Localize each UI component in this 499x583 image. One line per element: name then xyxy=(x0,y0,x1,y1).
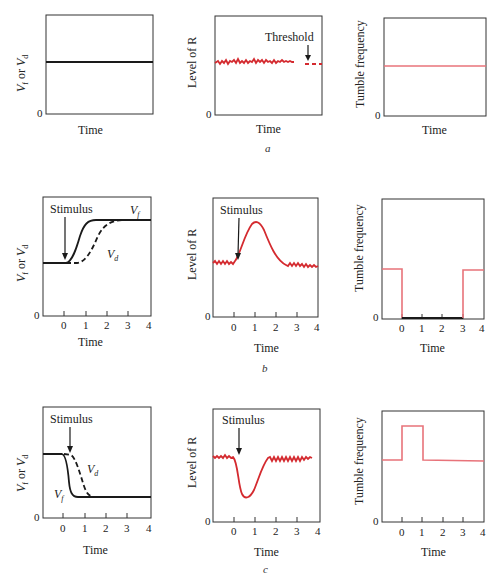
plot-frame xyxy=(384,18,486,116)
x-ticks xyxy=(63,513,127,518)
y-axis-label: Vf or Vd xyxy=(14,245,30,282)
x-ticks xyxy=(234,517,297,522)
x-tick-0: 0 xyxy=(61,319,67,331)
y-zero-label: 0 xyxy=(34,511,40,523)
vf-label: Vf xyxy=(54,487,65,503)
arrow-down-icon xyxy=(236,448,242,455)
y-axis-label: Tumble frequency xyxy=(353,20,367,108)
y-axis-label: Vf or Vd xyxy=(14,55,30,92)
y-zero-label: 0 xyxy=(205,310,211,322)
x-axis-label: Time xyxy=(422,123,447,137)
tumble-frequency-line xyxy=(382,426,484,461)
y-zero-label: 0 xyxy=(375,109,381,121)
y-zero-label: 0 xyxy=(373,311,379,323)
x-tick-1: 1 xyxy=(82,522,88,534)
panel-a-left: 0 Time Vf or Vd xyxy=(14,15,153,137)
x-tick-3: 3 xyxy=(294,525,300,537)
figure-canvas: 0 Time Vf or Vd Threshold 0 Time Level o… xyxy=(0,0,499,583)
x-axis-label: Time xyxy=(78,123,103,137)
panel-b-right: 0 1 2 3 4 0 Time Tumble frequency xyxy=(352,199,485,355)
x-tick-0: 0 xyxy=(231,525,237,537)
y-zero-label: 0 xyxy=(34,309,40,321)
vf-label: Vf xyxy=(130,203,141,219)
x-axis-label: Time xyxy=(421,545,446,559)
vd-label: Vd xyxy=(87,462,99,478)
y-axis-label: Level of R xyxy=(185,437,199,488)
plot-frame xyxy=(46,15,153,114)
x-tick-2: 2 xyxy=(104,319,110,331)
x-tick-0: 0 xyxy=(60,522,66,534)
x-ticks xyxy=(234,312,297,317)
x-tick-1: 1 xyxy=(419,526,425,538)
r-level-curve xyxy=(213,455,312,497)
x-ticks xyxy=(402,517,463,522)
x-axis-label: Time xyxy=(78,335,103,349)
x-tick-3: 3 xyxy=(294,321,300,333)
plot-frame xyxy=(382,411,484,522)
x-tick-2: 2 xyxy=(439,322,445,334)
x-tick-4: 4 xyxy=(315,525,321,537)
y-zero-label: 0 xyxy=(205,515,211,527)
x-tick-4: 4 xyxy=(479,322,485,334)
y-zero-label: 0 xyxy=(373,515,379,527)
x-tick-2: 2 xyxy=(440,526,446,538)
x-tick-3: 3 xyxy=(460,322,466,334)
x-axis-label: Time xyxy=(254,545,279,559)
tumble-frequency-before xyxy=(382,269,402,318)
tumble-frequency-after xyxy=(463,270,484,318)
x-tick-4: 4 xyxy=(146,522,152,534)
panel-b-left: 0 1 2 3 4 Stimulus Vf Vd 0 Time Vf or Vd xyxy=(14,197,152,349)
x-axis-label: Time xyxy=(256,122,281,136)
x-tick-3: 3 xyxy=(125,319,131,331)
y-axis-label: Level of R xyxy=(185,229,199,280)
x-axis-label: Time xyxy=(254,341,279,355)
r-level-curve xyxy=(213,222,318,267)
arrow-down-icon xyxy=(62,253,68,260)
stimulus-label: Stimulus xyxy=(50,412,93,426)
panel-c-left: 0 1 2 3 4 Stimulus Vd Vf 0 Time Vf or Vd xyxy=(14,407,152,557)
y-zero-label: 0 xyxy=(37,107,43,119)
plot-frame xyxy=(382,199,484,319)
x-tick-1: 1 xyxy=(252,321,258,333)
x-tick-1: 1 xyxy=(83,319,89,331)
arrow-down-icon xyxy=(67,446,73,453)
threshold-label: Threshold xyxy=(265,30,314,44)
x-tick-0: 0 xyxy=(399,526,405,538)
x-tick-4: 4 xyxy=(480,526,486,538)
x-tick-0: 0 xyxy=(231,321,237,333)
panel-c-right: 0 1 2 3 4 0 Time Tumble frequency xyxy=(352,411,486,559)
y-axis-label: Tumble frequency xyxy=(352,417,366,505)
panel-a-middle: Threshold 0 Time Level of R a xyxy=(185,16,322,154)
x-ticks xyxy=(64,311,128,316)
x-axis-label: Time xyxy=(83,543,108,557)
panel-c-middle: 0 1 2 3 4 Stimulus 0 Time Level of R c xyxy=(185,409,321,575)
r-level-noisy-line xyxy=(215,59,294,64)
panel-b-middle: 0 1 2 3 4 Stimulus 0 Time Level of R b xyxy=(185,198,320,374)
panel-a-right: 0 Time Tumble frequency xyxy=(353,18,486,137)
y-axis-label: Vf or Vd xyxy=(14,455,30,492)
stimulus-label: Stimulus xyxy=(220,203,263,217)
stimulus-label: Stimulus xyxy=(50,202,93,216)
panel-letter-b: b xyxy=(262,362,268,374)
x-tick-1: 1 xyxy=(252,525,258,537)
x-axis-label: Time xyxy=(420,341,445,355)
x-tick-2: 2 xyxy=(273,525,279,537)
panel-letter-c: c xyxy=(263,563,268,575)
stimulus-label: Stimulus xyxy=(222,413,265,427)
x-tick-4: 4 xyxy=(314,321,320,333)
y-zero-label: 0 xyxy=(206,108,212,120)
x-tick-4: 4 xyxy=(146,319,152,331)
x-tick-2: 2 xyxy=(103,522,109,534)
x-tick-3: 3 xyxy=(460,526,466,538)
x-tick-2: 2 xyxy=(273,321,279,333)
x-tick-0: 0 xyxy=(399,322,405,334)
vd-label: Vd xyxy=(107,247,119,263)
x-tick-3: 3 xyxy=(124,522,130,534)
arrow-down-icon xyxy=(305,55,311,61)
x-tick-1: 1 xyxy=(419,322,425,334)
vf-curve xyxy=(43,220,151,263)
stimulus-arrow-shaft xyxy=(238,218,239,255)
y-axis-label: Level of R xyxy=(185,37,199,88)
panel-letter-a: a xyxy=(265,142,271,154)
y-axis-label: Tumble frequency xyxy=(352,204,366,292)
